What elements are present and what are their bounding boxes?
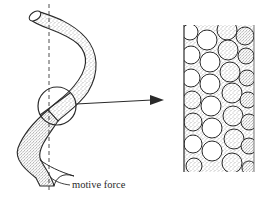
diagram-canvas (0, 0, 270, 201)
twisted-tube (17, 9, 96, 186)
motive-force-label: motive force (72, 179, 125, 190)
tube-lower-segment (17, 110, 58, 186)
tube-upper-segment (31, 12, 96, 121)
right-arrow (76, 95, 164, 105)
arrow-head-icon (150, 95, 164, 105)
packed-spheres-column (182, 20, 257, 175)
